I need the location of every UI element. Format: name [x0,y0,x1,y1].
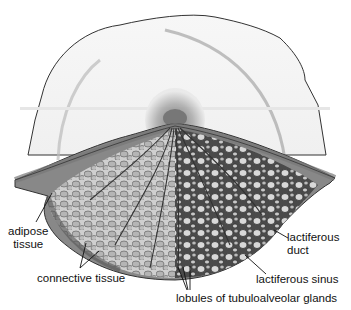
label-adipose-line1: adipose [8,225,48,238]
breast-illustration [0,0,351,310]
label-adipose-tissue: adipose tissue [8,225,48,251]
label-lactiferous-duct: lactiferous duct [287,231,339,257]
anatomy-diagram: adipose tissue connective tissue lactife… [0,0,351,310]
label-adipose-line2: tissue [8,238,48,251]
label-lactiferous-sinus: lactiferous sinus [256,273,338,286]
label-connective-tissue: connective tissue [37,272,125,285]
label-duct-line1: lactiferous [287,231,339,244]
label-duct-line2: duct [287,244,339,257]
label-lobules: lobules of tubuloalveolar glands [176,292,337,305]
